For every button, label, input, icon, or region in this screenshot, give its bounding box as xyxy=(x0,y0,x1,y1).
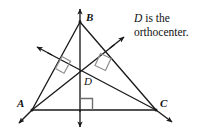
vertex-dot-C xyxy=(155,109,158,112)
vertex-label-C: C xyxy=(160,98,167,109)
orthocenter-figure: B A C D D is the orthocenter. xyxy=(0,0,211,137)
vertex-label-B: B xyxy=(86,12,93,23)
vertex-dot-A xyxy=(31,109,34,112)
caption-line-2: orthocenter. xyxy=(134,25,208,39)
caption-line-1: D is the xyxy=(134,11,208,25)
right-angle-on-AB xyxy=(56,57,71,74)
caption-orthocenter: D is the orthocenter. xyxy=(134,11,208,39)
vertex-label-A: A xyxy=(17,98,24,109)
altitude-from-C-ray-up-left xyxy=(37,47,52,55)
altitude-from-C-line xyxy=(48,53,156,110)
right-angle-on-AC xyxy=(81,99,93,111)
orthocenter-label-D: D xyxy=(84,76,92,87)
altitude-from-C-ray-down-right xyxy=(156,110,172,122)
vertex-dot-B xyxy=(79,21,82,24)
caption-line-1-rest: is the xyxy=(142,12,169,24)
altitude-from-C xyxy=(37,47,172,122)
altitude-from-A-ray-down-left xyxy=(19,110,32,123)
altitude-from-A-ray-up-right xyxy=(110,37,124,48)
